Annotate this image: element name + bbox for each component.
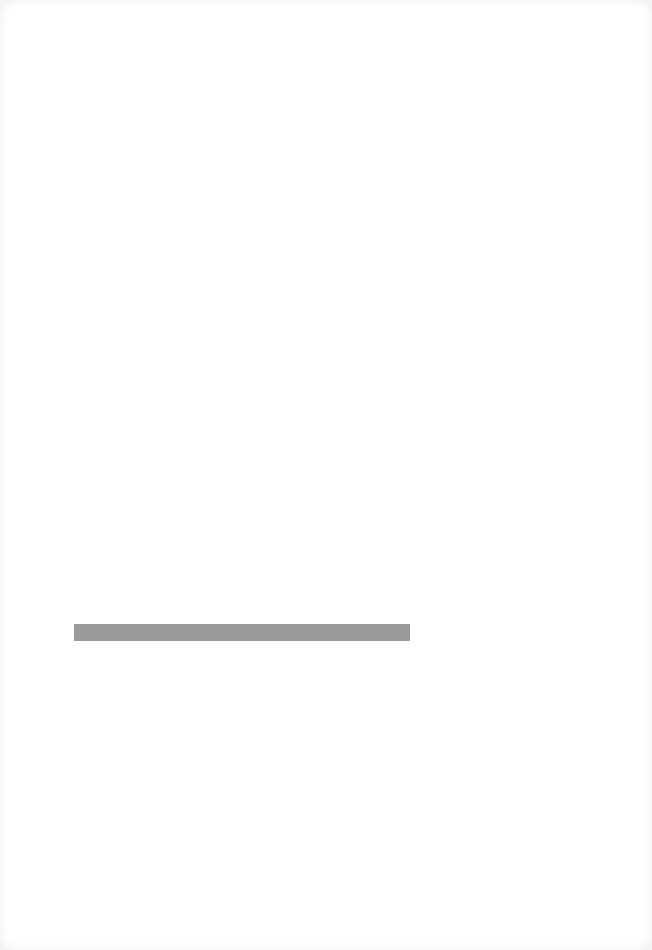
gray-horizontal-bar (74, 624, 410, 641)
document-page (0, 0, 652, 950)
